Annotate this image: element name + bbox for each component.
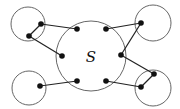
central-set-label: S <box>86 48 96 66</box>
node-dot <box>138 20 144 26</box>
diagram: S <box>0 0 180 109</box>
node-dot <box>138 84 144 90</box>
node-dot <box>74 26 80 32</box>
node-dot <box>37 83 43 89</box>
node-dot <box>26 33 32 39</box>
node-dot <box>38 21 44 27</box>
node-dot <box>103 78 109 84</box>
node-dot <box>103 26 109 32</box>
edge <box>121 23 141 55</box>
node-dot <box>59 53 65 59</box>
node-dot <box>74 78 80 84</box>
node-dot <box>118 52 124 58</box>
node-dot <box>151 71 157 77</box>
edge <box>121 55 154 74</box>
